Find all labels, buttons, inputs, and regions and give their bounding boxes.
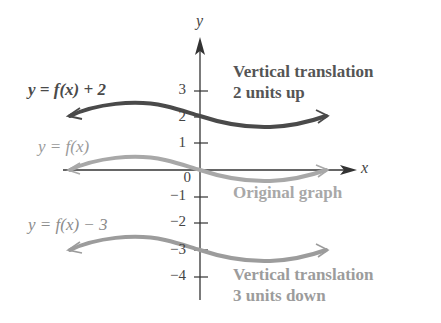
description-line: Original graph <box>233 182 342 203</box>
y-tick-label: 3 <box>158 81 186 98</box>
y-axis-label: y <box>196 12 203 30</box>
curve-shifted-up <box>68 103 328 127</box>
curve-shifted-down <box>68 237 328 261</box>
y-tick-label: 2 <box>158 108 186 125</box>
description-line: 3 units down <box>233 285 374 306</box>
curve-original <box>68 157 328 181</box>
description-line: 2 units up <box>233 82 374 103</box>
equation-shifted-up: y = f(x) + 2 <box>28 80 106 100</box>
equation-original: y = f(x) <box>38 137 89 157</box>
y-tick-label: −3 <box>158 241 186 258</box>
y-tick-label: −2 <box>158 213 186 230</box>
vertical-translation-diagram: y x 3 2 1 0 −1 −2 −3 −4 y = f(x) + 2 y =… <box>0 0 441 323</box>
description-shifted-up: Vertical translation 2 units up <box>233 61 374 103</box>
equation-shifted-down: y = f(x) − 3 <box>28 215 108 235</box>
description-line: Vertical translation <box>233 61 374 82</box>
y-tick-label: −1 <box>158 187 186 204</box>
description-shifted-down: Vertical translation 3 units down <box>233 264 374 306</box>
x-axis-label: x <box>361 159 368 177</box>
y-tick-label: 0 <box>163 169 191 186</box>
graph-canvas <box>0 0 441 323</box>
y-tick-label: −4 <box>158 267 186 284</box>
description-line: Vertical translation <box>233 264 374 285</box>
y-tick-label: 1 <box>158 134 186 151</box>
description-original: Original graph <box>233 182 342 203</box>
